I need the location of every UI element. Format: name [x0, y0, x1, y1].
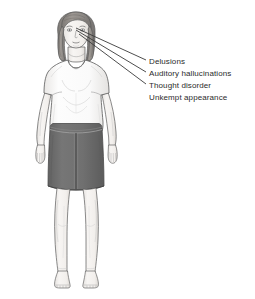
- neck: [68, 47, 85, 62]
- callout-label-delusions: Delusions: [149, 57, 185, 66]
- illustration-panel: Delusions Auditory hallucinations Though…: [0, 0, 255, 299]
- figure-illustration: [0, 0, 255, 299]
- feet: [55, 271, 99, 288]
- skirt: [48, 124, 104, 191]
- callout-label-auditory-hallucinations: Auditory hallucinations: [149, 69, 231, 78]
- callout-label-thought-disorder: Thought disorder: [149, 81, 211, 90]
- legs: [55, 188, 99, 272]
- callout-label-unkempt-appearance: Unkempt appearance: [149, 93, 227, 102]
- tshirt: [44, 60, 109, 131]
